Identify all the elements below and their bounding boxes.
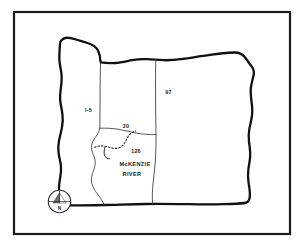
highway-label-20: 20 xyxy=(123,123,129,129)
river-label-line1: McKENZIE xyxy=(119,161,150,167)
highway-label-126: 126 xyxy=(131,148,141,154)
highway-label-i5: I-5 xyxy=(85,107,92,113)
compass-rose-icon: N xyxy=(48,190,70,212)
highway-label-97: 97 xyxy=(165,89,171,95)
map-canvas: I-5 97 20 126 McKENZIE RIVER N xyxy=(0,0,304,246)
sketch-map-figure: I-5 97 20 126 McKENZIE RIVER N xyxy=(0,0,304,246)
river-label-line2: RIVER xyxy=(123,171,142,177)
